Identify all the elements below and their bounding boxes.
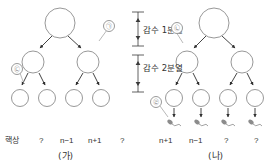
marker-b-badge: ㉡: [171, 22, 183, 34]
sperm-group-na: [166, 119, 262, 126]
diagram-canvas: 감수 1분열 감수 2분열 ㉠ ㉡ ㉢ ㉣ 핵상 ? n−1 n+1 ? n+1…: [0, 0, 277, 167]
cell-ga-d3: [66, 90, 83, 107]
arrows-na-to-sperm: [174, 108, 255, 117]
cell-ga-mid-left: [22, 51, 44, 73]
ploidy-na-2: n−1: [189, 137, 203, 145]
cell-na-d2: [193, 90, 210, 107]
sperm-cell: [166, 119, 181, 126]
stage-measure-bars: [132, 12, 144, 92]
arrows-ga: [22, 36, 99, 85]
stage-label-meiosis-2: 감수 2분열: [143, 64, 183, 73]
case-label-ga: (가): [58, 152, 73, 161]
cell-ga-mid-right: [77, 51, 99, 73]
marker-c-badge: ㉢: [11, 63, 23, 75]
marker-a-badge: ㉠: [103, 20, 115, 32]
cell-na-d3: [220, 90, 237, 107]
ploidy-ga-1: ?: [39, 137, 43, 145]
cell-ga-parent: [45, 8, 75, 38]
sperm-cell: [193, 119, 208, 126]
case-label-na: (나): [208, 152, 223, 161]
sperm-cell: [247, 119, 262, 126]
ploidy-ga-4: ?: [120, 137, 124, 145]
marker-d-badge: ㉣: [150, 96, 162, 108]
ploidy-na-4: ?: [254, 137, 258, 145]
arrows-na: [176, 36, 253, 85]
cell-na-parent: [199, 8, 229, 38]
cells-group-ga: [12, 8, 110, 107]
cell-ga-d4: [93, 90, 110, 107]
ploidy-na-1: n+1: [159, 137, 173, 145]
cell-na-d1: [166, 90, 183, 107]
cell-na-d4: [247, 90, 264, 107]
cell-ga-d2: [39, 90, 56, 107]
ploidy-ga-3: n+1: [88, 137, 102, 145]
sperm-cell: [220, 119, 235, 126]
ploidy-na-3: ?: [224, 137, 228, 145]
ploidy-ga-2: n−1: [60, 137, 74, 145]
row-header-ploidy: 핵상: [5, 137, 19, 145]
cell-ga-d1: [12, 90, 29, 107]
cell-na-mid-right: [231, 51, 253, 73]
